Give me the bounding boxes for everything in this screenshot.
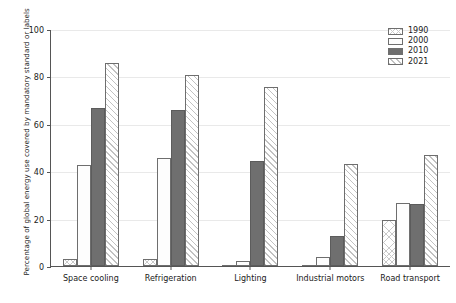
bar-1990[interactable]: [222, 265, 236, 266]
bar-2021[interactable]: [264, 87, 278, 266]
legend-item-2021[interactable]: 2021: [388, 58, 428, 66]
legend-swatch-1990: [388, 28, 403, 35]
x-tick-mark: [250, 266, 251, 270]
legend-label: 1990: [408, 27, 428, 35]
legend-item-2000[interactable]: 2000: [388, 37, 428, 45]
bar-2010[interactable]: [171, 110, 185, 266]
bar-2010[interactable]: [91, 108, 105, 266]
x-tick-label: Road transport: [380, 274, 440, 283]
x-tick-label: Industrial motors: [296, 274, 364, 283]
bar-2010[interactable]: [330, 236, 344, 266]
legend-swatch-2010: [388, 48, 403, 55]
legend-swatch-2000: [388, 38, 403, 45]
bar-group: Lighting: [211, 30, 291, 266]
x-tick-mark: [170, 266, 171, 270]
bar-1990[interactable]: [143, 259, 157, 266]
y-tick-label: 40: [34, 168, 44, 177]
legend-label: 2021: [408, 58, 428, 66]
x-tick-label: Lighting: [234, 274, 266, 283]
bar-chart: Percentage of global energy use covered …: [0, 0, 456, 303]
bar-2000[interactable]: [157, 158, 171, 266]
y-tick-label: 100: [29, 26, 44, 35]
x-tick-mark: [330, 266, 331, 270]
bar-2021[interactable]: [344, 164, 358, 266]
bar-2021[interactable]: [105, 63, 119, 266]
bar-2000[interactable]: [396, 203, 410, 266]
bar-2000[interactable]: [316, 257, 330, 266]
bar-group: Industrial motors: [290, 30, 370, 266]
bar-2000[interactable]: [236, 261, 250, 266]
y-tick-label: 60: [34, 120, 44, 129]
legend: 1990200020102021: [388, 27, 428, 66]
x-tick-label: Space cooling: [63, 274, 119, 283]
bar-group: Space cooling: [51, 30, 131, 266]
y-axis-title: Percentage of global energy use covered …: [22, 16, 31, 276]
bar-2021[interactable]: [185, 75, 199, 266]
bar-2021[interactable]: [424, 155, 438, 266]
y-tick-label: 80: [34, 73, 44, 82]
y-tick-mark: [47, 267, 51, 268]
x-tick-mark: [410, 266, 411, 270]
bar-2010[interactable]: [410, 204, 424, 266]
y-tick-label: 20: [34, 215, 44, 224]
legend-item-2010[interactable]: 2010: [388, 47, 428, 55]
bar-1990[interactable]: [302, 265, 316, 266]
bar-group: Refrigeration: [131, 30, 211, 266]
legend-label: 2000: [408, 37, 428, 45]
y-tick-label: 0: [39, 263, 44, 272]
legend-label: 2010: [408, 47, 428, 55]
bar-2010[interactable]: [250, 161, 264, 266]
legend-item-1990[interactable]: 1990: [388, 27, 428, 35]
bar-2000[interactable]: [77, 165, 91, 266]
x-tick-mark: [90, 266, 91, 270]
x-tick-label: Refrigeration: [145, 274, 197, 283]
bar-1990[interactable]: [63, 259, 77, 266]
legend-swatch-2021: [388, 58, 403, 65]
bar-1990[interactable]: [382, 220, 396, 266]
